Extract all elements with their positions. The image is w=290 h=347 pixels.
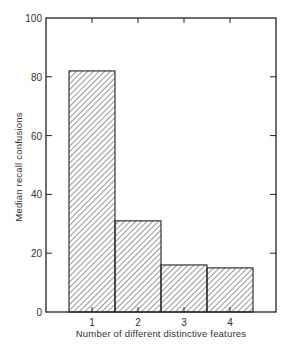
bar-1 (69, 71, 115, 312)
y-tick-label: 60 (31, 131, 43, 142)
x-tick-label: 4 (227, 317, 233, 328)
bar-3 (161, 265, 207, 312)
bar-4 (207, 268, 253, 312)
x-tick-label: 1 (89, 317, 95, 328)
y-axis-title: Median recall confusions (13, 112, 24, 221)
y-tick-label: 100 (25, 13, 42, 24)
bar-2 (115, 221, 161, 312)
y-tick-label: 80 (31, 72, 43, 83)
x-axis-title: Number of different distinctive features (76, 328, 247, 339)
y-tick-label: 40 (31, 189, 43, 200)
y-tick-label: 20 (31, 248, 43, 259)
x-tick-label: 2 (135, 317, 141, 328)
bars-group (69, 71, 253, 312)
bar-chart: 020406080100 1234 Number of different di… (0, 0, 290, 347)
x-tick-label: 3 (181, 317, 187, 328)
y-tick-label: 0 (36, 307, 42, 318)
